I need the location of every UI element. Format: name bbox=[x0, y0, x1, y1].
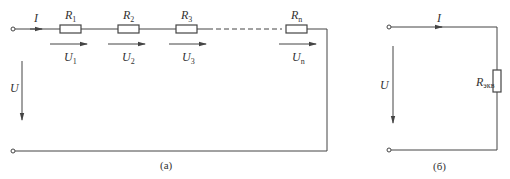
terminal-top-a bbox=[11, 27, 15, 31]
current-label-b: I bbox=[436, 11, 442, 25]
label-r3: R3 bbox=[180, 8, 192, 24]
resistor-r1 bbox=[60, 25, 81, 33]
label-rn: Rn bbox=[290, 8, 302, 24]
label-u1: U1 bbox=[64, 50, 77, 66]
terminal-top-b bbox=[387, 25, 391, 29]
total-voltage-label-a: U bbox=[10, 81, 20, 95]
caption-b: (б) bbox=[433, 160, 446, 173]
label-u3: U3 bbox=[182, 50, 195, 66]
terminal-bottom-a bbox=[11, 149, 15, 153]
label-r1: R1 bbox=[64, 8, 76, 24]
label-un: Un bbox=[292, 50, 305, 66]
top-wire bbox=[15, 29, 327, 151]
circuit-b: I Rэкв U (б) bbox=[380, 11, 501, 173]
terminal-bottom-b bbox=[387, 148, 391, 152]
label-r2: R2 bbox=[122, 8, 134, 24]
circuit-a: I R1 R2 R3 Rn U1 U2 U3 Un U (a) bbox=[10, 8, 327, 172]
label-req: Rэкв bbox=[475, 75, 495, 90]
resistor-r2 bbox=[118, 25, 139, 33]
resistor-r3 bbox=[176, 25, 197, 33]
total-voltage-label-b: U bbox=[380, 78, 390, 92]
resistor-rn bbox=[286, 25, 307, 33]
series-circuit-figure: I R1 R2 R3 Rn U1 U2 U3 Un U (a) bbox=[0, 0, 510, 179]
label-u2: U2 bbox=[122, 50, 135, 66]
current-label-a: I bbox=[33, 11, 39, 25]
caption-a: (a) bbox=[160, 159, 173, 172]
